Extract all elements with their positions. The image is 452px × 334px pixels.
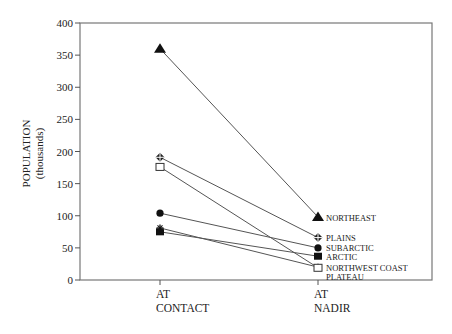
y-axis-title-unit: (thousands): [33, 128, 46, 180]
series-line: [160, 157, 318, 237]
series-label: ARCTIC: [326, 252, 358, 262]
y-axis: 050100150200250300350400: [57, 17, 81, 286]
y-tick-label: 0: [68, 274, 74, 286]
series-label: PLATEAU: [326, 272, 364, 282]
population-chart: 050100150200250300350400 ATCONTACTATNADI…: [0, 0, 452, 334]
series-label: PLAINS: [326, 233, 356, 243]
series-northeast: NORTHEAST: [154, 43, 377, 222]
series-line: [160, 213, 318, 248]
x-category-label-line2: CONTACT: [156, 302, 209, 314]
open-square-marker: [314, 264, 322, 271]
series-plains: PLAINS: [156, 153, 357, 243]
x-category-label-line2: NADIR: [314, 302, 351, 314]
y-tick-label: 250: [57, 113, 74, 125]
y-tick-label: 300: [57, 81, 74, 93]
y-tick-label: 350: [57, 49, 74, 61]
y-tick-label: 150: [57, 178, 74, 190]
series-line: [160, 228, 318, 267]
y-tick-label: 100: [57, 210, 74, 222]
series-label: NORTHEAST: [326, 213, 377, 223]
series-group: NORTHEASTPLAINSSUBARCTICARCTICNORTHWEST …: [154, 43, 409, 281]
y-axis-title: POPULATION (thousands): [20, 120, 46, 188]
circle-marker: [156, 210, 163, 217]
series-line: [160, 167, 318, 268]
series-line: [160, 49, 318, 217]
circle-marker: [314, 244, 321, 251]
cross-diamond-marker: [156, 153, 165, 162]
cross-diamond-marker: [314, 233, 323, 242]
star-marker: [157, 224, 164, 231]
x-category-label-line1: AT: [156, 288, 170, 300]
y-axis-title-main: POPULATION: [20, 120, 32, 188]
triangle-marker: [154, 43, 166, 53]
x-category-label-line1: AT: [314, 288, 328, 300]
y-tick-label: 50: [62, 242, 74, 254]
y-tick-label: 200: [57, 146, 74, 158]
y-tick-label: 400: [57, 17, 74, 29]
open-square-marker: [156, 163, 164, 170]
x-axis: ATCONTACTATNADIR: [156, 280, 351, 314]
square-marker: [314, 253, 322, 260]
